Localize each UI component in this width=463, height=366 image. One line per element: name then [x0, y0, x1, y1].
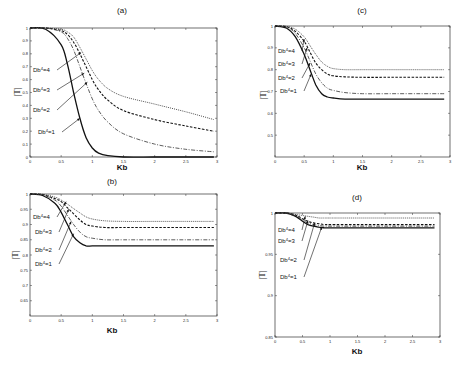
series-line [275, 26, 444, 70]
y-tick-label: 0.6 [22, 77, 28, 82]
y-tick-label: 0.9 [22, 222, 28, 227]
y-tick-label: 0.1 [22, 142, 28, 147]
y-tick-label: 1 [26, 26, 29, 31]
curve-annotation: Db4=4 [278, 47, 295, 55]
x-tick-label: 2 [384, 339, 387, 344]
panel-title: (a) [117, 6, 127, 15]
y-axis-label: |T| [258, 90, 268, 99]
y-tick-label: 0.7 [22, 64, 28, 69]
x-tick-label: 0 [274, 159, 277, 164]
y-tick-label: 0.5 [267, 133, 273, 138]
x-tick-label: 3 [216, 318, 219, 323]
curve-annotation: Db4=4 [278, 226, 295, 234]
x-tick-label: 3 [216, 159, 219, 164]
x-tick-label: 0.5 [58, 159, 64, 164]
curve-annotation: Db4=3 [33, 86, 50, 94]
plot-area [275, 26, 450, 157]
annotation-arrow [62, 118, 80, 132]
y-tick-label: 0.6 [267, 111, 273, 116]
x-tick-label: 0 [274, 339, 277, 344]
x-tick-label: 2.5 [418, 159, 424, 164]
x-tick-label: 2.5 [410, 339, 416, 344]
x-axis-label: Kb [117, 163, 128, 172]
x-tick-label: 2 [391, 159, 394, 164]
curve-annotation: Db4=1 [38, 128, 55, 136]
curve-annotation: Db4=1 [280, 87, 297, 95]
x-tick-label: 2.5 [183, 318, 189, 323]
curve-annotation: Db4=2 [35, 246, 52, 254]
plot-area [30, 194, 217, 316]
panel-title: (b) [107, 177, 117, 186]
y-tick-label: 0.65 [20, 298, 29, 303]
series-line [30, 194, 214, 228]
y-tick-label: 0.8 [22, 253, 28, 258]
x-tick-label: 0.5 [300, 339, 306, 344]
y-tick-label: 0.85 [20, 237, 29, 242]
curve-annotation: Db4=4 [33, 66, 50, 74]
plot-area [275, 213, 440, 337]
y-tick-label: 0.95 [20, 207, 29, 212]
y-tick-label: 0.5 [22, 90, 28, 95]
curve-annotation: Db4=3 [278, 237, 295, 245]
panel-title: (d) [352, 193, 362, 202]
curve-annotation: Db4=1 [280, 273, 297, 281]
y-tick-label: 0.3 [22, 116, 28, 121]
x-tick-label: 1.5 [121, 318, 127, 323]
x-tick-label: 1.5 [355, 339, 361, 344]
y-tick-label: 0.9 [267, 45, 273, 50]
y-tick-label: 0.85 [265, 335, 274, 340]
x-axis-label: Kb [107, 326, 118, 335]
y-tick-label: 1 [271, 211, 274, 216]
annotation-arrow [59, 234, 74, 264]
x-tick-label: 1 [91, 159, 94, 164]
y-tick-label: 1 [271, 24, 274, 29]
plot-area [30, 28, 217, 157]
x-tick-label: 1 [332, 159, 335, 164]
curve-annotation: Db4=2 [280, 256, 297, 264]
y-tick-label: 0.8 [22, 51, 28, 56]
y-tick-label: 0.9 [267, 293, 273, 298]
curve-annotation: Db4=3 [278, 60, 295, 68]
series-line [30, 194, 214, 246]
annotation-arrow [304, 227, 322, 277]
series-line [30, 28, 214, 131]
y-tick-label: 0.95 [265, 252, 274, 257]
series-line [30, 28, 214, 120]
y-axis-label: |T| [12, 87, 22, 96]
series-line [30, 194, 214, 221]
series-line [30, 194, 214, 240]
panel-title: (c) [357, 6, 367, 15]
y-tick-label: 1 [26, 192, 29, 197]
x-tick-label: 2 [154, 318, 157, 323]
y-tick-label: 0.75 [20, 268, 29, 273]
figure: 00.511.522.5300.10.20.30.40.50.60.70.80.… [0, 0, 463, 366]
y-tick-label: 0.7 [22, 283, 28, 288]
y-axis-label: |T| [257, 270, 267, 279]
y-axis-label: |T| [10, 250, 20, 259]
x-tick-label: 0 [29, 159, 32, 164]
y-tick-label: 0.4 [22, 103, 28, 108]
x-tick-label: 3 [439, 339, 442, 344]
x-tick-label: 1 [91, 318, 94, 323]
x-tick-label: 2 [154, 159, 157, 164]
curve-annotation: Db4=2 [33, 106, 50, 114]
x-tick-label: 0.5 [301, 159, 307, 164]
curve-annotation: Db4=1 [35, 260, 52, 268]
x-tick-label: 0 [29, 318, 32, 323]
annotation-arrow [59, 209, 69, 232]
curve-annotation: Db4=2 [278, 74, 295, 82]
x-axis-label: Kb [352, 347, 363, 356]
panel-b: 00.511.522.530.650.70.750.80.850.90.951(… [10, 177, 219, 335]
panel-d: 00.511.522.530.850.90.951(d)Kb|T|Db4=4Db… [257, 193, 442, 356]
curve-annotation: Db4=4 [33, 213, 50, 221]
y-tick-label: 0.8 [267, 67, 273, 72]
x-tick-label: 3 [449, 159, 452, 164]
y-tick-label: 0.7 [267, 89, 273, 94]
x-tick-label: 1 [329, 339, 332, 344]
x-tick-label: 2.5 [183, 159, 189, 164]
y-tick-label: 0.9 [22, 38, 28, 43]
panel-c: 00.511.522.530.50.60.70.80.91(c)Kb|T|Db4… [258, 6, 452, 172]
series-line [30, 28, 214, 157]
arrowhead-icon [78, 53, 81, 56]
x-tick-label: 0.5 [58, 318, 64, 323]
